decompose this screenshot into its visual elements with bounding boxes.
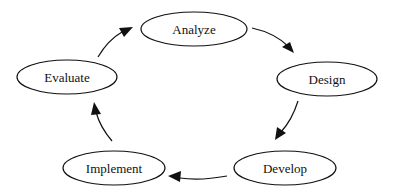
node-design-label: Design xyxy=(309,72,346,87)
arrowhead-icon xyxy=(91,102,101,115)
node-design: Design xyxy=(277,62,377,96)
node-evaluate: Evaluate xyxy=(17,60,117,94)
edge-implement-to-evaluate xyxy=(96,112,112,141)
arrowhead-icon xyxy=(168,171,181,182)
edge-analyze-to-design xyxy=(252,28,289,47)
node-implement: Implement xyxy=(63,151,165,185)
node-develop-label: Develop xyxy=(263,161,307,176)
node-analyze: Analyze xyxy=(141,12,247,46)
node-implement-label: Implement xyxy=(86,161,143,176)
cycle-diagram: Analyze Design Develop Implement Evaluat… xyxy=(0,0,395,193)
node-evaluate-label: Evaluate xyxy=(44,70,90,85)
node-analyze-label: Analyze xyxy=(172,22,216,37)
edge-develop-to-implement xyxy=(180,176,227,179)
arrowhead-icon xyxy=(282,42,294,53)
edge-design-to-develop xyxy=(281,101,298,132)
edge-evaluate-to-analyze xyxy=(98,32,122,57)
node-develop: Develop xyxy=(234,151,336,185)
